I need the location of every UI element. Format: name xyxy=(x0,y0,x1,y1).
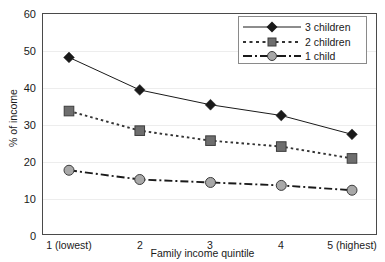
legend: 3 children 2 children 1 child xyxy=(238,16,367,64)
gridline-20 xyxy=(43,162,376,163)
legend-label-2-children: 2 children xyxy=(305,37,351,48)
legend-swatch-circle xyxy=(239,48,305,64)
legend-label-3-children: 3 children xyxy=(305,22,351,33)
y-tick-60: 60 xyxy=(2,9,36,20)
y-tick-50: 50 xyxy=(2,46,36,57)
y-tick-20: 20 xyxy=(2,157,36,168)
gridline-10 xyxy=(43,199,376,200)
legend-item-3-children[interactable]: 3 children xyxy=(239,19,366,35)
x-axis-title: Family income quintile xyxy=(0,247,385,259)
y-axis-title: % of income xyxy=(7,83,19,153)
legend-swatch-diamond xyxy=(239,19,305,35)
x-axis-title-text: Family income quintile xyxy=(151,247,255,259)
gridline-40 xyxy=(43,88,376,89)
legend-label-1-child: 1 child xyxy=(305,51,335,62)
y-tick-0: 0 xyxy=(2,231,36,242)
legend-item-1-child[interactable]: 1 child xyxy=(239,48,366,64)
gridline-30 xyxy=(43,125,376,126)
chart-container: 60 50 40 30 20 10 0 % of income 1 (lowes… xyxy=(0,0,385,262)
y-tick-10: 10 xyxy=(2,194,36,205)
